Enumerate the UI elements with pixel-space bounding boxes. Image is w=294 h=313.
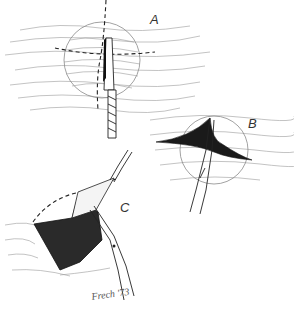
panel-c-label: C	[120, 200, 130, 215]
panel-b-label: B	[248, 116, 257, 131]
scalpel-icon	[103, 38, 116, 138]
panel-c: C	[5, 150, 134, 300]
panel-b-opened-incision	[156, 118, 252, 160]
panel-a: A	[5, 0, 210, 138]
panel-a-lesion	[64, 22, 140, 98]
panel-b: B	[150, 115, 294, 214]
forceps-icon	[110, 150, 132, 182]
illustration: A B	[0, 0, 294, 313]
panel-a-label: A	[149, 12, 159, 27]
